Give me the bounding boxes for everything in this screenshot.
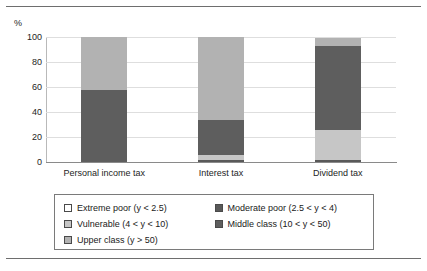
y-axis: 020406080100 <box>0 37 42 163</box>
x-tick-label-interest-tax: Interest tax <box>199 168 244 179</box>
y-tick-label-60: 60 <box>2 83 42 92</box>
bar-segment-personal-income-tax-upper-class[interactable] <box>81 37 127 90</box>
bar-segment-personal-income-tax-middle-class[interactable] <box>81 90 127 163</box>
bar-segment-dividend-tax-vulnerable[interactable] <box>315 130 361 160</box>
legend-row: Upper class (y > 50) <box>64 232 373 248</box>
legend-row: Vulnerable (4 < y < 10) Middle class (10… <box>64 216 373 232</box>
bar-personal-income-tax[interactable] <box>81 37 127 162</box>
bar-segment-interest-tax-vulnerable[interactable] <box>198 155 244 160</box>
legend-item-upper-class[interactable]: Upper class (y > 50) <box>64 232 216 248</box>
bar-segment-dividend-tax-middle-class[interactable] <box>315 46 361 130</box>
chart-legend: Extreme poor (y < 2.5) Moderate poor (2.… <box>54 194 374 250</box>
legend-label-middle-class: Middle class (10 < y < 50) <box>228 219 331 229</box>
legend-row: Extreme poor (y < 2.5) Moderate poor (2.… <box>64 200 373 216</box>
legend-item-vulnerable[interactable]: Vulnerable (4 < y < 10) <box>64 216 215 232</box>
legend-swatch-moderate-poor <box>215 204 223 212</box>
bar-interest-tax[interactable] <box>198 37 244 162</box>
y-tick-label-100: 100 <box>2 33 42 42</box>
legend-item-extreme-poor[interactable]: Extreme poor (y < 2.5) <box>64 200 215 216</box>
x-tick-label-dividend-tax: Dividend tax <box>313 168 363 179</box>
legend-item-moderate-poor[interactable]: Moderate poor (2.5 < y < 4) <box>215 200 373 216</box>
legend-label-moderate-poor: Moderate poor (2.5 < y < 4) <box>228 203 338 213</box>
legend-item-middle-class[interactable]: Middle class (10 < y < 50) <box>215 216 373 232</box>
legend-label-upper-class: Upper class (y > 50) <box>77 235 158 245</box>
y-tick-label-40: 40 <box>2 108 42 117</box>
figure-bottom-rule <box>6 258 421 259</box>
legend-swatch-vulnerable <box>64 220 72 228</box>
y-axis-unit-label: % <box>14 19 22 28</box>
legend-label-extreme-poor: Extreme poor (y < 2.5) <box>77 203 167 213</box>
legend-label-vulnerable: Vulnerable (4 < y < 10) <box>77 219 168 229</box>
y-tick-label-80: 80 <box>2 58 42 67</box>
y-tick-label-0: 0 <box>2 158 42 167</box>
figure-top-rule <box>6 6 421 7</box>
bar-segment-dividend-tax-moderate-poor[interactable] <box>315 160 361 163</box>
legend-swatch-middle-class <box>215 220 223 228</box>
bar-segment-dividend-tax-upper-class[interactable] <box>315 38 361 46</box>
bar-segment-interest-tax-middle-class[interactable] <box>198 120 244 155</box>
y-tick-label-20: 20 <box>2 133 42 142</box>
x-tick-label-personal-income-tax: Personal income tax <box>64 168 146 179</box>
plot-area <box>46 37 396 162</box>
x-axis-line <box>46 162 397 163</box>
bar-segment-interest-tax-upper-class[interactable] <box>198 37 244 120</box>
bar-dividend-tax[interactable] <box>315 37 361 162</box>
legend-swatch-upper-class <box>64 236 72 244</box>
legend-swatch-extreme-poor <box>64 204 72 212</box>
bar-segment-interest-tax-moderate-poor[interactable] <box>198 160 244 163</box>
